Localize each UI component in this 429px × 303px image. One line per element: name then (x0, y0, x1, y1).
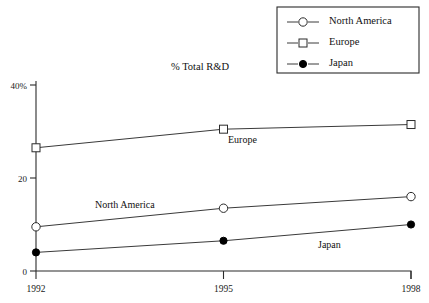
legend-item-label: Japan (329, 57, 354, 68)
series-north-america (32, 192, 415, 231)
legend-marker[interactable] (299, 60, 306, 67)
data-point[interactable] (32, 249, 39, 256)
legend-item-label: North America (329, 15, 392, 26)
data-point[interactable] (32, 144, 40, 152)
data-point[interactable] (407, 221, 414, 228)
data-point[interactable] (219, 204, 227, 212)
y-axis-tick-label: 20 (18, 174, 28, 184)
data-point[interactable] (407, 121, 415, 129)
series-annotation-japan: Japan (318, 239, 341, 250)
data-point[interactable] (220, 125, 228, 133)
series-annotation-north-america: North America (95, 199, 155, 210)
series-japan (32, 221, 414, 256)
x-axis-tick-label: 1995 (214, 284, 233, 294)
x-axis-tick-label: 1992 (27, 284, 46, 294)
x-axis-tick-label: 1998 (402, 284, 421, 294)
legend-marker[interactable] (299, 39, 307, 47)
series-europe (32, 121, 415, 152)
legend-item-label: Europe (329, 36, 360, 47)
data-point[interactable] (32, 223, 40, 231)
line-chart: % Total R&D02040%199219951998EuropeNorth… (0, 0, 429, 303)
chart-container: % Total R&D02040%199219951998EuropeNorth… (0, 0, 429, 303)
chart-title: % Total R&D (171, 61, 229, 72)
chart-legend: North AmericaEuropeJapan (277, 7, 419, 73)
series-annotation-europe: Europe (228, 134, 257, 145)
data-point[interactable] (220, 237, 227, 244)
legend-marker[interactable] (299, 18, 307, 26)
data-point[interactable] (407, 192, 415, 200)
y-axis-tick-label: 40% (11, 81, 28, 91)
y-axis-tick-label: 0 (23, 267, 28, 277)
